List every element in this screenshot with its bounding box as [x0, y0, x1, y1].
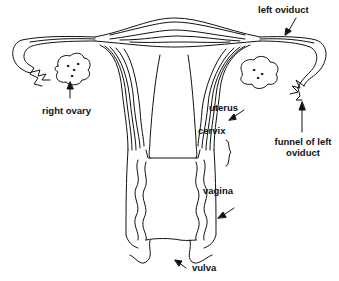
right-oviduct — [13, 36, 95, 72]
label-funnel-line1: funnel of left — [268, 136, 338, 147]
cervix-brace — [226, 140, 231, 166]
label-funnel-line2: oviduct — [268, 147, 338, 158]
uterus-fundus — [95, 18, 260, 47]
label-vulva: vulva — [192, 262, 216, 273]
label-funnel-of-left-oviduct: funnel of left oviduct — [268, 136, 338, 158]
label-vagina: vagina — [203, 185, 233, 196]
left-ovary-drawing — [241, 56, 304, 100]
right-ovary-drawing — [28, 53, 90, 86]
label-left-oviduct: left oviduct — [258, 4, 309, 15]
vagina-drawing — [126, 150, 216, 248]
label-uterus: uterus — [209, 102, 238, 113]
label-right-ovary: right ovary — [42, 105, 91, 116]
vulva-drawing — [130, 240, 212, 263]
label-cervix: cervix — [198, 125, 225, 136]
